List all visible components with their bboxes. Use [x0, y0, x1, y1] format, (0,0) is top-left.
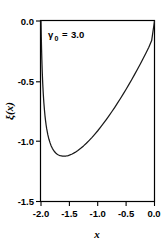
x-tick-label-1: -1.5 [61, 208, 78, 219]
y-tick-label-1: -0.5 [18, 76, 35, 87]
x-tick-label-2: -1.0 [90, 208, 106, 219]
x-tick-label-0: -2.0 [33, 208, 49, 219]
x-axis-title: x [93, 228, 100, 240]
chart-figure: 0.0 -0.5 -1.0 -1.5 -2.0 -1.5 -1.0 -0.5 0… [0, 0, 168, 251]
y-tick-label-2: -1.0 [18, 136, 34, 147]
annotation-symbol: γ [48, 29, 54, 40]
annotation-relation: = [62, 29, 68, 40]
y-axis-title: ξ(x) [3, 102, 16, 120]
annotation-value: 3.0 [71, 29, 84, 40]
y-tick-label-3: -1.5 [18, 196, 35, 207]
y-tick-label-0: 0.0 [21, 16, 34, 27]
x-tick-label-3: -0.5 [118, 208, 135, 219]
x-tick-label-4: 0.0 [147, 208, 160, 219]
chart-svg: 0.0 -0.5 -1.0 -1.5 -2.0 -1.5 -1.0 -0.5 0… [0, 0, 168, 251]
annotation-subscript: 0 [55, 35, 59, 42]
